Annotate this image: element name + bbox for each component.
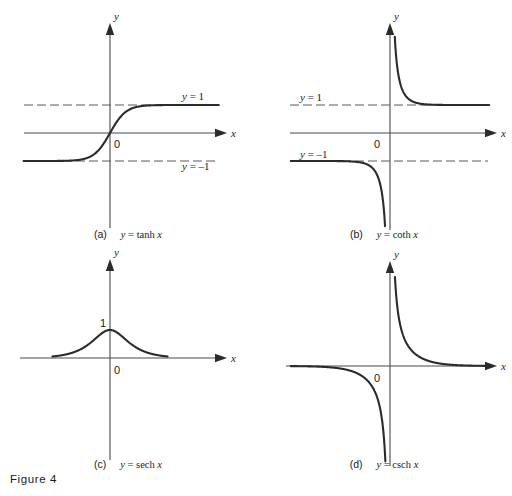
panel-tanh: xy0y = 1y = –1 bbox=[0, 0, 256, 248]
caption-equation-b: y = coth x bbox=[377, 229, 418, 240]
caption-equation-a: y = tanh x bbox=[121, 229, 162, 240]
tick-label: 1 bbox=[100, 317, 106, 329]
x-axis-arrow bbox=[485, 129, 497, 137]
y-axis-arrow bbox=[386, 261, 394, 273]
x-axis-label: x bbox=[500, 360, 506, 372]
caption-csch: (d)y = csch x bbox=[256, 458, 512, 470]
origin-label: 0 bbox=[374, 138, 380, 150]
y-axis-label: y bbox=[393, 248, 399, 260]
x-axis-label: x bbox=[230, 352, 236, 364]
figure-number: Figure 4 bbox=[10, 473, 57, 485]
y-axis-arrow bbox=[386, 23, 394, 35]
caption-coth: (b)y = coth x bbox=[256, 228, 512, 240]
y-axis-label: y bbox=[113, 10, 119, 22]
curve-csch bbox=[395, 277, 489, 366]
plot-tanh: xy0y = 1y = –1 bbox=[0, 0, 256, 248]
y-axis-arrow bbox=[106, 23, 114, 35]
caption-tanh: (a)y = tanh x bbox=[0, 228, 256, 240]
caption-tag-b: (b) bbox=[350, 228, 363, 240]
curve-csch bbox=[291, 366, 386, 461]
caption-equation-d: y = csch x bbox=[377, 459, 419, 470]
y-axis-label: y bbox=[393, 10, 399, 22]
curve-coth bbox=[291, 161, 385, 226]
x-axis-arrow bbox=[215, 129, 227, 137]
x-axis-arrow bbox=[215, 354, 227, 362]
asymptote-label: y = 1 bbox=[181, 90, 204, 102]
asymptote-label: y = –1 bbox=[181, 160, 210, 172]
caption-tag-a: (a) bbox=[94, 228, 107, 240]
origin-label: 0 bbox=[114, 364, 120, 376]
panel-coth: xy0y = 1y = –1 bbox=[256, 0, 512, 248]
asymptote-label: y = –1 bbox=[299, 148, 328, 160]
y-axis-label: y bbox=[113, 246, 119, 258]
x-axis-label: x bbox=[230, 127, 236, 139]
curve-coth bbox=[395, 37, 489, 105]
origin-label: 0 bbox=[374, 372, 380, 384]
y-axis-arrow bbox=[106, 259, 114, 271]
asymptote-label: y = 1 bbox=[299, 91, 322, 103]
caption-equation-c: y = sech x bbox=[120, 459, 162, 470]
caption-tag-d: (d) bbox=[350, 458, 363, 470]
origin-label: 0 bbox=[114, 138, 120, 150]
figure-sheet: xy0y = 1y = –1 (a)y = tanh x xy0y = 1y =… bbox=[0, 0, 512, 496]
caption-sech: (c)y = sech x bbox=[0, 458, 256, 470]
plot-coth: xy0y = 1y = –1 bbox=[256, 0, 512, 248]
x-axis-label: x bbox=[500, 127, 506, 139]
caption-tag-c: (c) bbox=[94, 458, 106, 470]
